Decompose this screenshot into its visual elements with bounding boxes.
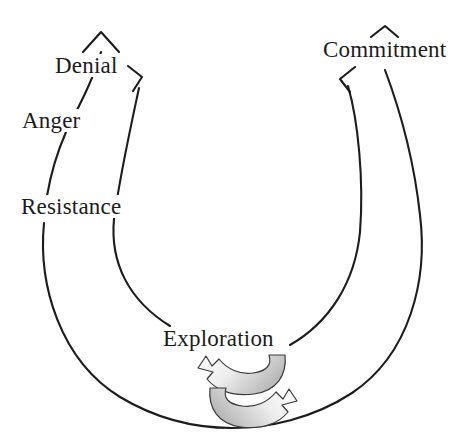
stage-label-commitment: Commitment bbox=[321, 38, 448, 61]
arrowhead-right-denial bbox=[128, 66, 142, 91]
arrowhead-up-commitment bbox=[371, 26, 398, 37]
change-cycle-diagram: Denial Anger Resistance Exploration Comm… bbox=[0, 0, 464, 443]
stage-label-anger: Anger bbox=[20, 109, 82, 132]
curve-to-exploration-left bbox=[113, 219, 170, 326]
arrowhead-left-commitment bbox=[340, 67, 355, 92]
stage-label-exploration: Exploration bbox=[161, 327, 276, 350]
arrowhead-up-denial bbox=[83, 32, 119, 52]
curve-exploration-to-commitment bbox=[290, 86, 361, 345]
stage-label-denial: Denial bbox=[53, 54, 120, 77]
stage-label-resistance: Resistance bbox=[19, 195, 123, 218]
